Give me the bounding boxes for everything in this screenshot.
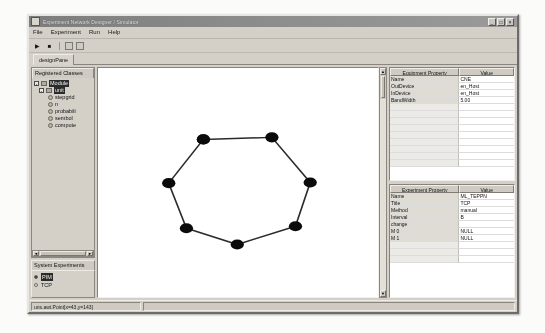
property-value-cell[interactable] [459,221,514,228]
table-row-empty[interactable] [390,256,514,263]
scroll-right-icon[interactable]: ► [87,251,93,256]
radio-icon[interactable] [34,275,38,279]
tab-design-pane[interactable]: designPane [33,54,74,65]
list-item[interactable]: TCP [34,281,92,289]
property-value-cell[interactable]: en_Host [459,83,514,90]
property-value-cell[interactable]: 5.00 [459,97,514,104]
property-value-cell[interactable] [459,125,514,132]
table-row[interactable]: TitleTCP [390,200,514,207]
run-button[interactable]: ▶ [33,41,42,50]
tree-node[interactable]: stepgrid [34,94,93,101]
table-row-empty[interactable] [390,104,514,111]
toolbar-tool-icon[interactable] [65,42,73,50]
minimize-button[interactable]: _ [488,18,496,26]
tree-horizontal-scrollbar[interactable]: ◄ ► [32,250,94,257]
property-name-cell: BandWidth [390,97,459,104]
table-row-empty[interactable] [390,125,514,132]
topology-canvas[interactable] [97,67,379,298]
tree-expand-icon[interactable]: - [34,81,39,86]
table-row[interactable]: BandWidth5.00 [390,97,514,104]
property-value-cell[interactable]: en_Host [459,90,514,97]
table-body[interactable]: NameCNEOutDeviceen_HostInDeviceen_HostBa… [390,76,514,180]
property-value-cell[interactable]: B [459,214,514,221]
table-row[interactable]: NameCNE [390,76,514,83]
graph-node[interactable] [289,221,302,231]
property-value-cell[interactable] [459,160,514,167]
property-value-cell[interactable] [459,111,514,118]
table-body[interactable]: NameML_TEPPNTitleTCPMethodmanualInterval… [390,193,514,297]
table-row-empty[interactable] [390,132,514,139]
equipment-property-table[interactable]: Equipment Property Value NameCNEOutDevic… [389,67,515,181]
registered-classes-tree[interactable]: - Module - unit stepgrid [32,78,94,250]
property-value-cell[interactable] [459,132,514,139]
experiment-property-table[interactable]: Experiment Property Value NameML_TEPPNTi… [389,184,515,298]
tree-expand-icon[interactable]: - [39,88,44,93]
property-value-cell[interactable] [459,118,514,125]
maximize-button[interactable]: □ [497,18,505,26]
table-row[interactable]: InDeviceen_Host [390,90,514,97]
graph-node[interactable] [180,223,193,233]
table-row[interactable]: NameML_TEPPN [390,193,514,200]
property-value-cell[interactable] [459,104,514,111]
table-row-empty[interactable] [390,249,514,256]
table-row[interactable]: M 1NULL [390,235,514,242]
table-row-empty[interactable] [390,111,514,118]
property-value-cell[interactable]: manual [459,207,514,214]
canvas-vertical-scrollbar[interactable]: ▲ ▼ [379,67,387,298]
graph-node[interactable] [231,239,244,249]
property-value-cell[interactable] [459,153,514,160]
table-row[interactable]: M 0NULL [390,228,514,235]
graph-node[interactable] [162,178,175,188]
table-row[interactable]: OutDeviceen_Host [390,83,514,90]
menu-bar: File Experiment Run Help [29,27,517,39]
scrollbar-track[interactable] [380,99,386,290]
property-value-cell[interactable]: NULL [459,228,514,235]
property-value-cell[interactable] [459,249,514,256]
scrollbar-thumb[interactable] [381,76,385,98]
property-value-cell[interactable]: ML_TEPPN [459,193,514,200]
property-value-cell[interactable] [459,256,514,263]
property-value-cell[interactable]: CNE [459,76,514,83]
property-value-cell[interactable]: TCP [459,200,514,207]
graph-node[interactable] [265,132,278,142]
tree-node[interactable]: - unit [34,87,93,94]
page-background: Experiment Network Designer / Simulator … [0,0,545,333]
table-row[interactable]: change [390,221,514,228]
table-row-empty[interactable] [390,118,514,125]
menu-item-file[interactable]: File [33,29,43,36]
table-row-empty[interactable] [390,160,514,167]
menu-item-experiment[interactable]: Experiment [51,29,81,36]
scroll-left-icon[interactable]: ◄ [33,251,39,256]
table-row-empty[interactable] [390,146,514,153]
graph-edge [237,226,295,244]
toolbar-tool-icon-2[interactable] [76,42,84,50]
table-row-empty[interactable] [390,153,514,160]
scroll-down-icon[interactable]: ▼ [380,290,386,297]
property-name-cell: Interval [390,214,459,221]
property-value-cell[interactable] [459,139,514,146]
tree-node[interactable]: sembol [34,115,93,122]
scroll-up-icon[interactable]: ▲ [380,68,386,75]
table-row-empty[interactable] [390,139,514,146]
menu-item-run[interactable]: Run [89,29,100,36]
graph-node[interactable] [304,177,317,187]
property-value-cell[interactable] [459,146,514,153]
tree-node[interactable]: probabili [34,108,93,115]
folder-icon [41,81,47,86]
table-row-empty[interactable] [390,242,514,249]
table-row[interactable]: IntervalB [390,214,514,221]
menu-item-help[interactable]: Help [108,29,120,36]
system-experiments-list[interactable]: PIM TCP [31,270,95,298]
tree-node[interactable]: n [34,101,93,108]
property-value-cell[interactable] [459,242,514,249]
close-button[interactable]: × [506,18,514,26]
radio-icon[interactable] [34,283,38,287]
list-item[interactable]: PIM [34,273,92,281]
stop-button[interactable]: ■ [45,41,54,50]
graph-node[interactable] [197,134,210,144]
tree-node[interactable]: compute [34,122,93,129]
property-value-cell[interactable]: NULL [459,235,514,242]
table-row[interactable]: Methodmanual [390,207,514,214]
scrollbar-thumb[interactable] [40,251,86,256]
tree-node[interactable]: - Module [34,80,93,87]
